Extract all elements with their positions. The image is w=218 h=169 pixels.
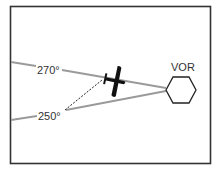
- diagram-canvas: 270° 250° VOR: [0, 0, 218, 169]
- vor-label: VOR: [171, 61, 195, 73]
- radial-250-line: [11, 91, 166, 120]
- vor-station-icon: [166, 77, 196, 103]
- radial-250-label: 250°: [38, 110, 61, 122]
- vor-radial-diagram: 270° 250° VOR: [0, 0, 218, 169]
- radial-270-line: [11, 62, 166, 88]
- dashed-course-line: [65, 80, 102, 110]
- radial-270-label: 270°: [37, 64, 60, 76]
